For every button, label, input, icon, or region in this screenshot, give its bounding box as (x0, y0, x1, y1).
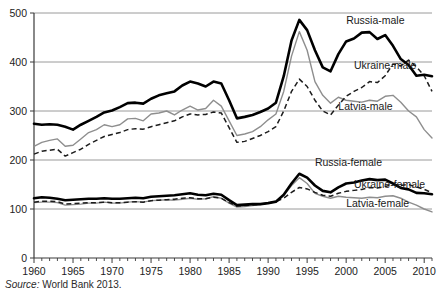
y-tick-label-100: 100 (9, 203, 27, 215)
x-tick-label-1970: 1970 (100, 265, 124, 277)
annotation-latvia-male: Latvia-male (338, 100, 392, 112)
y-tick-label-400: 400 (9, 56, 27, 68)
source-text: World Bank 2013. (42, 279, 121, 290)
source-prefix: Source: (5, 279, 39, 290)
y-tick-label-0: 0 (21, 252, 27, 264)
x-tick-label-1980: 1980 (178, 265, 202, 277)
y-axis-labels-group: 0100200300400500 (9, 7, 27, 264)
x-axis-labels-group: 1960196519701975198019851990199520002005… (22, 265, 436, 277)
x-tick-label-2005: 2005 (373, 265, 397, 277)
annotation-russia-female: Russia-female (315, 156, 382, 168)
x-tick-label-1960: 1960 (22, 265, 46, 277)
x-tick-label-1990: 1990 (256, 265, 280, 277)
annotation-latvia-female: Latvia-female (346, 197, 409, 209)
x-tick-label-1975: 1975 (139, 265, 163, 277)
x-tick-label-2010: 2010 (413, 265, 437, 277)
series-line-russia-male (34, 20, 432, 130)
x-tick-label-1995: 1995 (295, 265, 319, 277)
line-chart: 0100200300400500 19601965197019751980198… (0, 0, 440, 300)
y-tick-label-200: 200 (9, 154, 27, 166)
source-note: Source: World Bank 2013. (5, 279, 122, 290)
annotation-russia-male: Russia-male (346, 14, 405, 26)
series-line-latvia-male (34, 32, 432, 147)
annotation-ukraine-female: Ukraine-female (354, 178, 425, 190)
annotation-ukraine-male: Ukraine-male (354, 59, 417, 71)
x-axis-ticks-group (34, 258, 432, 263)
x-tick-label-1965: 1965 (61, 265, 85, 277)
y-tick-label-300: 300 (9, 105, 27, 117)
y-tick-label-500: 500 (9, 7, 27, 19)
x-tick-label-2000: 2000 (334, 265, 358, 277)
chart-figure: 0100200300400500 19601965197019751980198… (0, 0, 440, 300)
x-tick-label-1985: 1985 (217, 265, 241, 277)
